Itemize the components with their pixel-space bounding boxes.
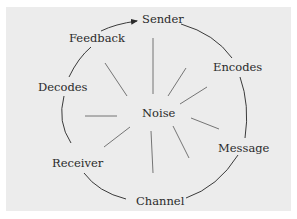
node-sender: Sender (142, 12, 184, 26)
node-receiver: Receiver (52, 156, 104, 170)
node-channel: Channel (136, 194, 185, 208)
node-encodes: Encodes (213, 60, 262, 74)
node-feedback: Feedback (69, 31, 126, 45)
center-noise: Noise (142, 106, 176, 120)
arc-channel-receiver (84, 173, 126, 199)
arc-message-channel (186, 155, 238, 198)
node-message: Message (218, 141, 270, 155)
node-decodes: Decodes (38, 80, 88, 94)
arc-decodes-feedback (69, 47, 91, 77)
arc-feedback-sender (101, 21, 137, 31)
arc-encodes-message (240, 77, 247, 138)
communication-cycle-diagram: Sender Encodes Message Channel Receiver … (0, 0, 297, 219)
arc-sender-encodes (181, 24, 232, 58)
arc-receiver-decodes (62, 96, 71, 143)
